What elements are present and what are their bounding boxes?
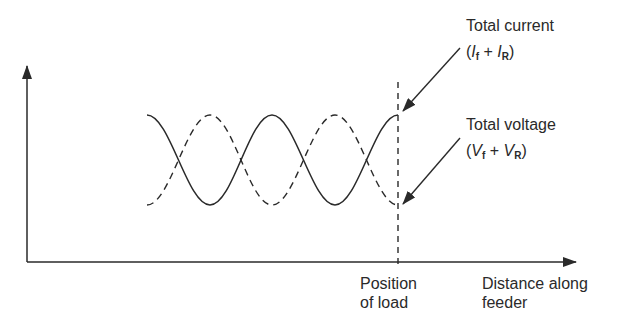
var: V xyxy=(471,142,482,159)
total-current-curve xyxy=(147,115,398,205)
paren: ) xyxy=(521,142,526,159)
voltage-pointer-arrow xyxy=(403,138,460,204)
subscript: R xyxy=(502,51,509,62)
load-position-label: Position of load xyxy=(360,274,417,312)
current-pointer-arrow xyxy=(403,48,460,111)
current-label-formula: (If + IR) xyxy=(466,42,514,66)
voltage-label-formula: (Vf + VR) xyxy=(466,141,527,165)
paren: ) xyxy=(509,43,514,60)
voltage-label-title: Total voltage xyxy=(466,115,556,134)
total-voltage-curve xyxy=(147,115,398,205)
var: V xyxy=(504,142,515,159)
load-label-line1: Position xyxy=(360,274,417,293)
load-label-line2: of load xyxy=(360,293,417,312)
plus: + xyxy=(479,43,497,60)
x-axis-label-line2: feeder xyxy=(482,293,588,312)
current-label-title: Total current xyxy=(466,16,554,35)
x-axis-label-line1: Distance along xyxy=(482,274,588,293)
x-axis-label: Distance along feeder xyxy=(482,274,588,312)
plus: + xyxy=(485,142,503,159)
